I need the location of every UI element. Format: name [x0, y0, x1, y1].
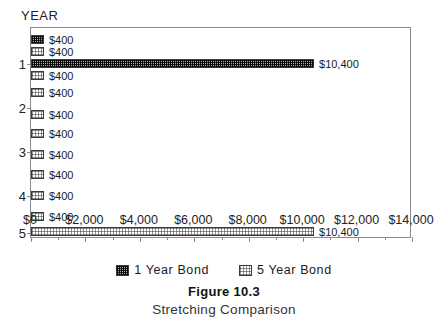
bar: $400 [31, 88, 44, 97]
x-axis-minor-tick [330, 237, 331, 240]
bar: $10,400 [31, 59, 314, 68]
x-axis-tick-label: $14,000 [388, 213, 433, 227]
bar-value-label: $400 [49, 190, 73, 202]
bar: $400 [31, 110, 44, 119]
legend-swatch-icon [239, 265, 252, 276]
figure-caption: Stretching Comparison [0, 302, 448, 317]
bar: $400 [31, 35, 44, 44]
legend-swatch-icon [116, 265, 129, 276]
bar: $400 [31, 170, 44, 179]
y-axis-tick-label: 2 [19, 101, 26, 116]
x-axis-tick-label: $10,000 [280, 213, 325, 227]
y-axis-tick-label: 4 [19, 189, 26, 204]
x-axis-tick [140, 237, 141, 242]
y-axis-title: YEAR [21, 8, 58, 23]
x-axis-minor-tick [58, 237, 59, 240]
bar-value-label: $400 [49, 87, 73, 99]
x-axis-tick-label: $8,000 [229, 213, 267, 227]
x-axis-tick [303, 237, 304, 242]
x-axis-minor-tick [113, 237, 114, 240]
bar-value-label: $10,400 [319, 58, 359, 70]
x-axis-minor-tick [276, 237, 277, 240]
legend-item: 5 Year Bond [239, 263, 332, 277]
y-axis-tick-label: 1 [19, 57, 26, 72]
legend-item: 1 Year Bond [116, 263, 209, 277]
bar: $400 [31, 129, 44, 138]
x-axis-minor-tick [385, 237, 386, 240]
x-axis-tick [85, 237, 86, 242]
x-axis-tick-label: $12,000 [334, 213, 379, 227]
bar-value-label: $400 [49, 34, 73, 46]
y-axis-tick-label: 3 [19, 145, 26, 160]
bar: $400 [31, 191, 44, 200]
x-axis-tick [194, 237, 195, 242]
chart-legend: 1 Year Bond5 Year Bond [0, 263, 448, 277]
bar: $10,400 [31, 227, 314, 236]
bar-value-label: $400 [49, 46, 73, 58]
x-axis-tick [31, 237, 32, 242]
bar-value-label: $400 [49, 109, 73, 121]
x-axis-tick [358, 237, 359, 242]
bar-value-label: $10,400 [319, 226, 359, 238]
x-axis-tick-label: $2,000 [65, 213, 103, 227]
y-axis-tick [27, 108, 31, 109]
bar-value-label: $400 [49, 149, 73, 161]
bar: $400 [31, 71, 44, 80]
bar-value-label: $400 [49, 70, 73, 82]
figure-number: Figure 10.3 [0, 284, 448, 299]
y-axis-tick-label: 5 [19, 226, 26, 241]
x-axis-tick-label: $0 [23, 213, 37, 227]
bar: $400 [31, 47, 44, 56]
x-axis-tick-label: $4,000 [120, 213, 158, 227]
bar: $400 [31, 150, 44, 159]
chart-container: YEAR 12345$400$400$10,400$400$400$400$40… [0, 0, 448, 328]
x-axis-minor-tick [222, 237, 223, 240]
bar-value-label: $400 [49, 169, 73, 181]
x-axis-tick [412, 237, 413, 242]
x-axis-tick [249, 237, 250, 242]
plot-area: 12345$400$400$10,400$400$400$400$400$400… [30, 27, 411, 238]
x-axis-minor-tick [167, 237, 168, 240]
bar-value-label: $400 [49, 128, 73, 140]
legend-label: 5 Year Bond [257, 263, 332, 277]
x-axis-tick-label: $6,000 [174, 213, 212, 227]
legend-label: 1 Year Bond [134, 263, 209, 277]
